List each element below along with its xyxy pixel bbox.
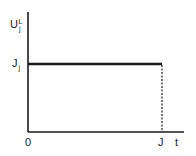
x-axis-label: t xyxy=(175,137,178,148)
y-axis-label: UjL xyxy=(10,19,22,31)
y-label-main: U xyxy=(10,18,18,30)
level-label: Jj xyxy=(12,58,20,70)
x-end-label: J xyxy=(158,137,164,148)
diagram-canvas xyxy=(0,0,196,156)
level-label-subscript: j xyxy=(19,64,21,71)
y-label-superscript: L xyxy=(19,18,23,25)
y-label-subscript: j xyxy=(19,25,21,32)
origin-label: 0 xyxy=(25,137,31,148)
level-label-main: J xyxy=(12,57,18,69)
